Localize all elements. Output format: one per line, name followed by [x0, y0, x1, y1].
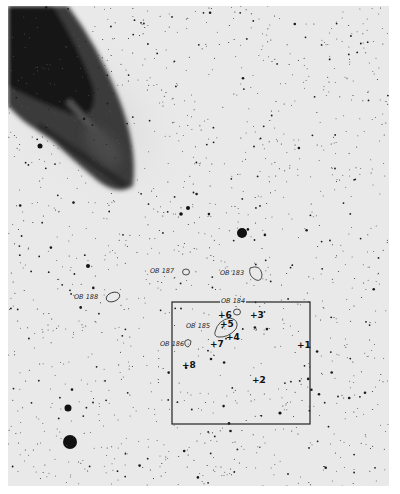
sky-field [8, 6, 389, 486]
marker-2: +2 [252, 376, 266, 385]
label-ob185: OB 185 [186, 323, 210, 330]
marker-8: +8 [182, 361, 196, 370]
galaxy-photograph: OB 187 OB 183 OB 188 OB 184 OB 185 OB 18… [8, 6, 389, 486]
bright-star [63, 435, 77, 449]
label-ob187: OB 187 [150, 268, 174, 275]
ob188-outline [105, 290, 121, 303]
marker-5: +5 [220, 320, 234, 329]
marker-7: +7 [210, 340, 224, 349]
ob183-outline [250, 267, 262, 281]
marker-4: +4 [226, 333, 240, 342]
bright-star [237, 228, 247, 238]
marker-6: +6 [218, 311, 232, 320]
label-ob188: OB 188 [74, 294, 98, 301]
marker-3: +3 [250, 311, 264, 320]
marker-1: +1 [297, 341, 311, 350]
label-ob186: OB 186 [160, 341, 184, 348]
ob184-outline [234, 309, 241, 315]
ob186-outline [185, 340, 191, 348]
label-ob183: OB 183 [220, 270, 244, 277]
label-ob184: OB 184 [220, 298, 246, 305]
ob187-outline [183, 269, 190, 275]
bright-star [65, 405, 72, 412]
